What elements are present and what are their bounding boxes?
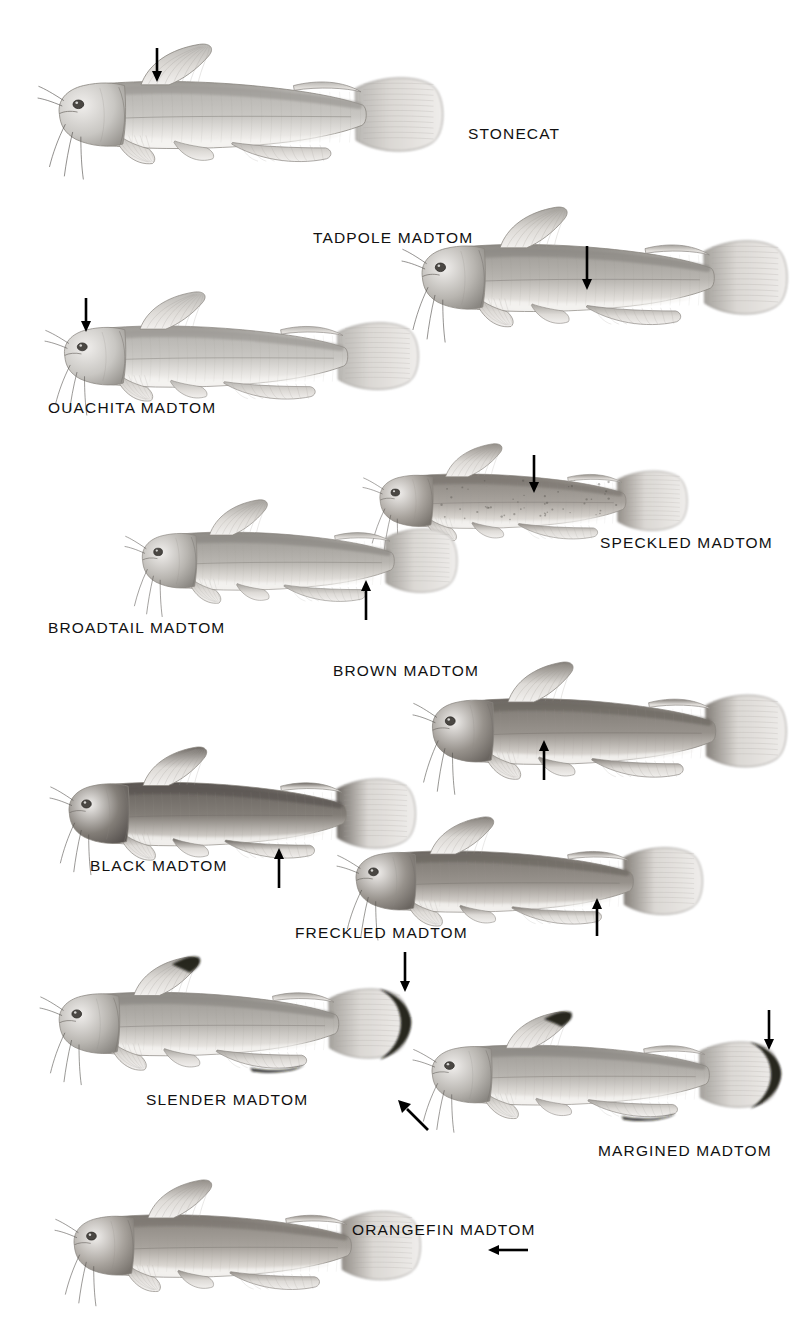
anal-fin [230, 1272, 320, 1290]
adipose-fin [644, 1046, 705, 1055]
anal-fin [592, 758, 684, 777]
fish-illustration [55, 1178, 427, 1316]
fish-broadtail-madtom [125, 498, 463, 626]
species-label-orangefin-madtom: ORANGEFIN MADTOM [352, 1222, 535, 1238]
fish-tadpole-madtom [402, 205, 794, 353]
pointer-arrow-brown-madtom [537, 740, 551, 780]
adipose-fin [645, 245, 709, 255]
species-label-stonecat: STONECAT [468, 126, 560, 142]
fish-head [432, 1047, 492, 1103]
fish-illustration [402, 205, 794, 353]
fish-head [432, 700, 493, 762]
species-label-brown-madtom: BROWN MADTOM [333, 663, 479, 679]
fish-head [74, 1216, 134, 1275]
caudal-fin [617, 471, 687, 530]
species-label-freckled-madtom: FRECKLED MADTOM [295, 925, 468, 941]
fish-illustration [413, 660, 793, 805]
adipose-fin [568, 474, 622, 482]
fish-illustration [40, 955, 415, 1095]
fish-eye [391, 489, 400, 496]
fish-eye [369, 868, 379, 876]
fish-eye [82, 800, 92, 808]
adipose-fin [335, 533, 390, 542]
caudal-fin [385, 529, 457, 592]
anal-fin [225, 840, 315, 858]
fish-eye [445, 717, 455, 725]
fish-head [69, 784, 129, 844]
fish-illustration [38, 42, 450, 190]
fish-head [422, 246, 485, 309]
caudal-fin [706, 695, 787, 767]
fish-eye [435, 263, 445, 272]
anal-fin [512, 907, 602, 924]
fish-illustration [125, 498, 463, 626]
pointer-arrow-speckled-madtom [527, 455, 541, 493]
anal-fin [586, 305, 680, 324]
pointer-arrow-black-madtom [272, 848, 286, 888]
species-label-ouachita-madtom: OUACHITA MADTOM [48, 400, 216, 416]
fish-brown-madtom [413, 660, 793, 805]
fish-head [356, 852, 416, 910]
fish-head [59, 994, 120, 1054]
adipose-fin [281, 326, 343, 335]
fish-margined-madtom [413, 1010, 785, 1142]
fish-orangefin-madtom [55, 1178, 427, 1316]
pointer-arrow-secondary-margined-madtom [398, 1100, 428, 1130]
pointer-arrow-margined-madtom [762, 1010, 776, 1050]
anal-fin [232, 142, 331, 161]
fish-eye [73, 100, 84, 109]
species-label-broadtail-madtom: BROADTAIL MADTOM [48, 620, 225, 636]
adipose-fin [568, 851, 629, 860]
species-label-black-madtom: BLACK MADTOM [90, 858, 228, 874]
fish-head [59, 83, 126, 146]
fish-eye [87, 1232, 97, 1240]
caudal-fin [338, 323, 419, 390]
anal-fin [518, 523, 598, 538]
adipose-fin [281, 783, 342, 792]
adipose-fin [273, 993, 335, 1002]
pointer-arrow-stonecat [150, 48, 164, 82]
pointer-arrow-tadpole-madtom [580, 246, 594, 290]
fish-slender-madtom [40, 955, 415, 1095]
adipose-fin [293, 82, 361, 92]
species-label-margined-madtom: MARGINED MADTOM [598, 1143, 772, 1159]
fish-stonecat [38, 42, 450, 190]
fish-illustration [413, 1010, 785, 1142]
illustration-plate: STONECAT TADPOLE MADTOM OUACHITA MADTOM … [0, 0, 810, 1333]
fish-eye [445, 1062, 455, 1070]
fish-eye [154, 548, 163, 555]
caudal-fin [704, 241, 787, 314]
anal-fin [224, 382, 316, 399]
species-label-slender-madtom: SLENDER MADTOM [146, 1092, 308, 1108]
caudal-fin [623, 848, 702, 915]
caudal-fin [355, 78, 443, 151]
pointer-arrow-orangefin-madtom [488, 1243, 528, 1257]
adipose-fin [649, 699, 711, 709]
fish-eye [77, 343, 87, 351]
anal-fin [216, 1050, 306, 1068]
adipose-fin [286, 1215, 347, 1224]
pointer-arrow-slender-madtom [398, 952, 412, 992]
anal-fin [284, 585, 365, 602]
fish-head [64, 327, 125, 385]
pointer-arrow-broadtail-madtom [359, 580, 373, 620]
fish-eye [72, 1010, 82, 1018]
pointer-arrow-ouachita-madtom [79, 298, 93, 332]
fish-head [142, 533, 197, 588]
species-label-tadpole-madtom: TADPOLE MADTOM [313, 230, 473, 246]
anal-fin [588, 1100, 678, 1117]
pointer-arrow-freckled-madtom [590, 898, 604, 936]
species-label-speckled-madtom: SPECKLED MADTOM [600, 535, 773, 551]
